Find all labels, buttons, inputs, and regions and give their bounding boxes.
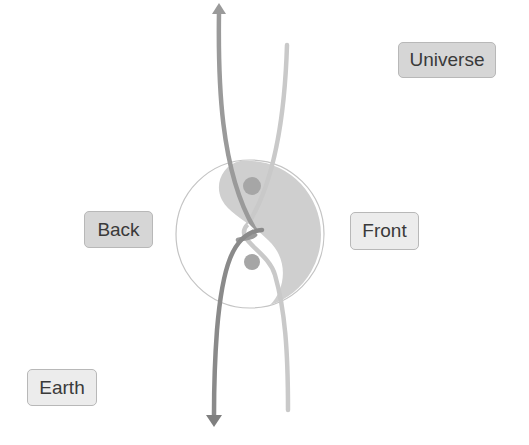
label-earth: Earth: [27, 369, 97, 406]
up-arrowhead-icon: [212, 3, 226, 14]
label-back: Back: [84, 211, 153, 248]
label-universe: Universe: [398, 42, 496, 78]
label-front: Front: [350, 212, 419, 250]
lower-dot: [244, 254, 260, 270]
down-arrowhead-icon: [206, 415, 222, 427]
upper-dot: [243, 177, 261, 195]
